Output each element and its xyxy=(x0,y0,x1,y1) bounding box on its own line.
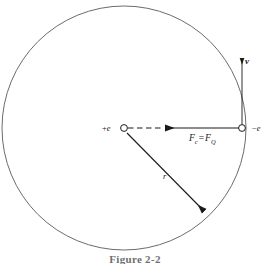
figure-caption: Figure 2-2 xyxy=(0,253,270,264)
force-equals-operator: = xyxy=(198,133,205,143)
orbit-charge-label: −e xyxy=(252,124,261,133)
center-charge-marker xyxy=(121,125,128,132)
orbit-diagram-canvas xyxy=(0,0,270,264)
center-charge-symbol: e xyxy=(107,123,111,133)
orbit-charge-marker xyxy=(239,125,246,132)
orbit-charge-symbol: e xyxy=(257,123,261,133)
radius-label: r xyxy=(163,172,166,181)
velocity-label: v xyxy=(245,57,249,66)
force-rhs-subscript: Q xyxy=(211,138,216,145)
figure-container: +e −e Fc=FQ r v Figure 2-2 xyxy=(0,0,270,264)
center-charge-label: +e xyxy=(102,124,111,133)
force-equation-label: Fc=FQ xyxy=(189,134,216,145)
